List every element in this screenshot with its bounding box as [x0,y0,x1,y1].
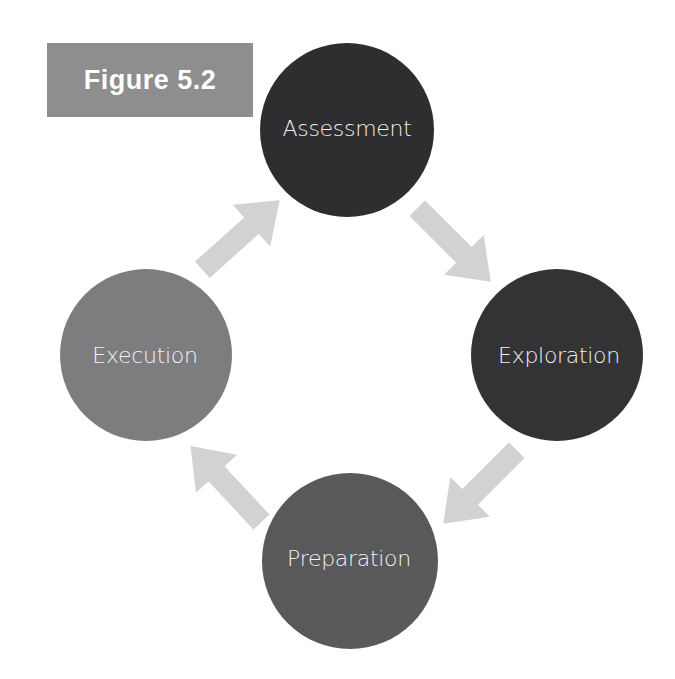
node-label-execution: Execution [92,343,197,368]
arrow-execution-to-assessment [184,179,299,290]
node-label-exploration: Exploration [498,343,620,368]
arrow-assessment-to-exploration [397,188,510,301]
node-label-assessment: Assessment [283,116,412,141]
cycle-diagram [0,0,675,679]
arrow-exploration-to-preparation [423,430,536,543]
arrow-preparation-to-execution [170,427,282,541]
node-label-preparation: Preparation [287,546,411,571]
